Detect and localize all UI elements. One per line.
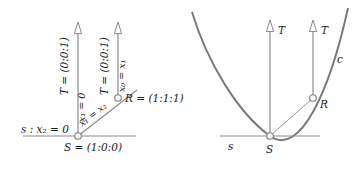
right-arrowhead-tangent-right (309, 20, 316, 32)
left-label-tangent-left: T = (0:0:1) (58, 37, 70, 95)
diagram-canvas: T = (0:0:1) x₁ = 0 T = (0:0:1) x₀ = x₁ x… (0, 0, 361, 171)
right-panel-group: T T c R S s (192, 8, 348, 155)
left-label-vertical-x0-eq-x1: x₀ = x₁ (116, 60, 127, 92)
right-label-point-r: R (319, 98, 328, 110)
left-arrowhead-tangent-right (114, 22, 121, 34)
right-label-tangent-left: T (278, 24, 286, 36)
left-label-tangent-right: T = (0:0:1) (98, 37, 110, 95)
left-node-s (75, 133, 82, 140)
left-arrowhead-tangent-left (74, 22, 81, 34)
right-label-line-s: s (228, 140, 234, 152)
left-node-r (115, 95, 122, 102)
left-panel-group: T = (0:0:1) x₁ = 0 T = (0:0:1) x₀ = x₁ x… (21, 22, 184, 153)
left-label-point-s: S = (1:0:0) (64, 141, 122, 153)
right-chord-s-to-r (270, 98, 313, 136)
left-label-point-r: R = (1:1:1) (124, 92, 184, 104)
right-label-curve-c: c (337, 53, 343, 65)
right-node-s (267, 133, 274, 140)
figure-pair: T = (0:0:1) x₁ = 0 T = (0:0:1) x₀ = x₁ x… (0, 0, 361, 171)
right-arrowhead-tangent-left (266, 20, 273, 32)
right-node-r (310, 95, 317, 102)
right-label-point-s: S (266, 143, 273, 155)
right-label-tangent-right: T (321, 24, 329, 36)
left-label-line-s: s : x₂ = 0 (21, 123, 69, 135)
